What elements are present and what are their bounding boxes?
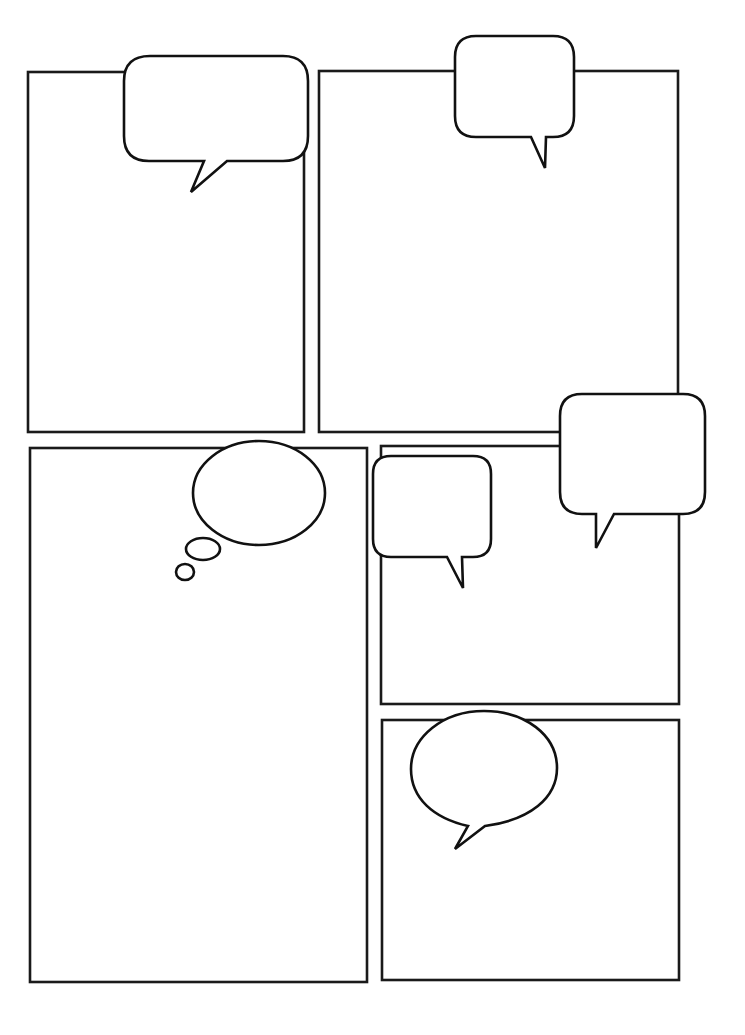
comic-page [0,0,745,1035]
panel-3 [30,448,367,982]
thought-bubble-main-oval [193,441,325,545]
thought-bubble-medium-circle [186,538,220,560]
thought-bubble-small-circle [176,564,194,580]
